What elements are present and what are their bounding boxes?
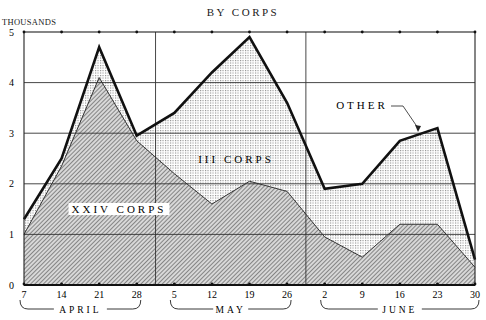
x-tick-mark	[60, 283, 63, 286]
top-tick-mark	[211, 31, 214, 34]
top-tick-mark	[173, 31, 176, 34]
top-tick-mark	[135, 31, 138, 34]
x-tick-mark	[398, 283, 401, 286]
x-tick-mark	[474, 283, 477, 286]
y-tick-label: 3	[9, 128, 14, 139]
x-tick-mark	[98, 283, 101, 286]
top-tick-mark	[474, 31, 477, 34]
y-tick-label: 0	[9, 280, 14, 291]
top-tick-mark	[286, 31, 289, 34]
month-label: APRIL	[59, 305, 101, 315]
top-tick-mark	[98, 31, 101, 34]
x-tick-label: 30	[470, 289, 480, 300]
other-label: OTHER	[336, 99, 388, 111]
x-tick-label: 12	[207, 289, 217, 300]
x-tick-mark	[323, 283, 326, 286]
y-tick-label: 2	[9, 178, 14, 189]
x-tick-label: 2	[322, 289, 327, 300]
x-tick-label: 21	[94, 289, 104, 300]
y-tick-label: 4	[9, 77, 14, 88]
x-tick-mark	[135, 283, 138, 286]
top-tick-mark	[323, 31, 326, 34]
x-tick-label: 19	[245, 289, 255, 300]
x-tick-label: 23	[432, 289, 442, 300]
x-tick-mark	[23, 283, 26, 286]
top-tick-mark	[248, 31, 251, 34]
top-tick-mark	[361, 31, 364, 34]
x-tick-mark	[211, 283, 214, 286]
y-tick-label: 1	[9, 229, 14, 240]
top-tick-mark	[436, 31, 439, 34]
x-tick-mark	[286, 283, 289, 286]
x-tick-label: 26	[282, 289, 292, 300]
xxiv-corps-label: XXIV CORPS	[72, 203, 167, 215]
month-label: JUNE	[382, 305, 417, 315]
x-tick-mark	[173, 283, 176, 286]
month-label: MAY	[216, 305, 246, 315]
x-tick-label: 28	[132, 289, 142, 300]
x-tick-mark	[436, 283, 439, 286]
area-chart: 0123457142128512192629162330APRILMAYJUNE…	[0, 0, 486, 320]
x-tick-label: 7	[22, 289, 27, 300]
top-tick-mark	[23, 31, 26, 34]
x-tick-mark	[248, 283, 251, 286]
x-tick-mark	[361, 283, 364, 286]
other-arrow	[391, 106, 418, 128]
x-tick-label: 16	[395, 289, 405, 300]
other-arrowhead	[415, 125, 421, 132]
y-tick-label: 5	[9, 27, 14, 38]
x-tick-label: 5	[172, 289, 177, 300]
top-tick-mark	[60, 31, 63, 34]
top-tick-mark	[398, 31, 401, 34]
x-tick-label: 14	[57, 289, 67, 300]
x-tick-label: 9	[360, 289, 365, 300]
iii-corps-label: III CORPS	[198, 153, 274, 165]
